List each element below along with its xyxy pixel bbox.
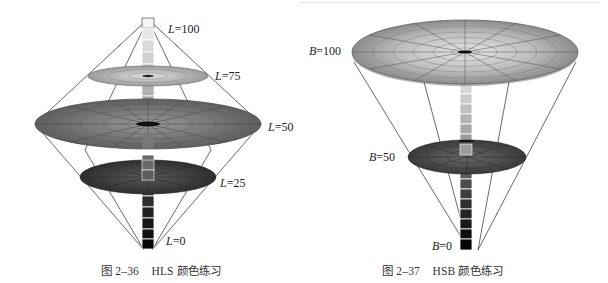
disk-b50	[408, 140, 526, 174]
label-l100: L=100	[168, 23, 199, 35]
caption-number: 图 2–37	[382, 265, 420, 277]
hsb-caption: 图 2–37 HSB 颜色练习	[382, 262, 503, 278]
disk-l25	[80, 160, 216, 194]
caption-text: HLS 颜色练习	[151, 265, 221, 277]
hsb-figure: B=100 B=50 B=0 图 2–37 HSB 颜色练习	[304, 0, 608, 283]
label-value: =25	[227, 176, 246, 190]
label-b100: B=100	[309, 45, 341, 57]
label-var: L	[215, 69, 222, 83]
label-l0: L=0	[166, 235, 185, 247]
caption-number: 图 2–36	[101, 265, 139, 277]
label-l25: L=25	[220, 177, 245, 189]
label-var: L	[268, 120, 275, 134]
caption-text: HSB 颜色练习	[432, 265, 503, 277]
label-value: =75	[222, 69, 241, 83]
disk-l50	[35, 99, 261, 149]
label-l50: L=50	[268, 121, 293, 133]
label-value: =0	[173, 234, 186, 248]
label-var: L	[220, 176, 227, 190]
hls-double-cone-diagram	[0, 0, 304, 283]
hsb-cone-diagram	[304, 0, 608, 283]
label-l75: L=75	[215, 70, 240, 82]
label-value: =0	[439, 239, 452, 253]
label-b0: B=0	[432, 240, 452, 252]
label-value: =100	[175, 22, 200, 36]
disk-l75	[88, 66, 208, 86]
label-value: =100	[316, 44, 341, 58]
label-value: =50	[275, 120, 294, 134]
disk-b100	[352, 20, 578, 86]
label-var: L	[168, 22, 175, 36]
hls-caption: 图 2–36 HLS 颜色练习	[101, 262, 222, 278]
label-var: L	[166, 234, 173, 248]
label-b50: B=50	[369, 151, 395, 163]
label-value: =50	[376, 150, 395, 164]
hls-figure: L=100 L=75 L=50 L=25 L=0 图 2–36 HLS 颜色练习	[0, 0, 304, 283]
